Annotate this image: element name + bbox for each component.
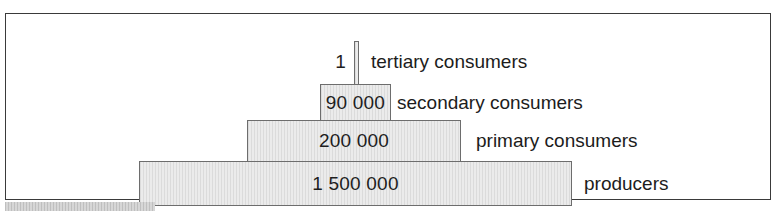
pyramid-of-numbers-chart: 1 tertiary consumers 90 000 secondary co… [6, 14, 772, 201]
figure-frame: 1 tertiary consumers 90 000 secondary co… [5, 13, 771, 200]
page-edge-artifact [5, 202, 155, 211]
tier-value-primary: 200 000 [247, 131, 461, 150]
tier-value-secondary: 90 000 [320, 93, 391, 112]
tier-label-producers: producers [584, 174, 669, 193]
tier-label-primary: primary consumers [476, 131, 638, 150]
tier-label-tertiary: tertiary consumers [371, 52, 527, 71]
tier-bar-tertiary [354, 41, 359, 85]
tier-value-producers: 1 500 000 [139, 174, 572, 193]
tier-value-tertiary: 1 [306, 52, 346, 71]
tier-label-secondary: secondary consumers [397, 93, 583, 112]
